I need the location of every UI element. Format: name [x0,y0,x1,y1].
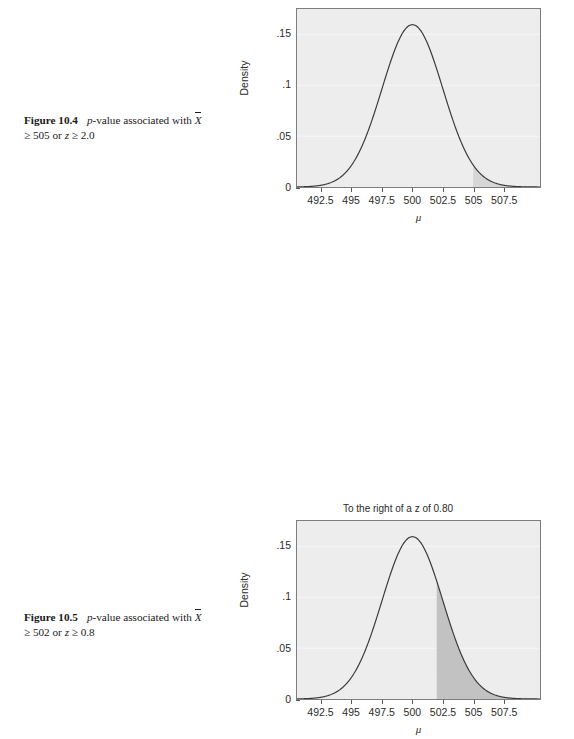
y-tick-label: .05 [265,130,291,142]
figure-caption-1-xbar: X [195,113,202,128]
density-plot-svg-1 [297,9,540,187]
x-axis-label-2: μ [296,723,541,735]
x-tick-mark [474,700,475,704]
y-tick-label: .15 [265,27,291,39]
y-tick-label: .1 [265,78,291,90]
y-axis-label-2: Density [238,572,250,607]
y-axis-ticks-2: 0.05.1.15 [262,520,296,700]
x-tick-mark [504,188,505,192]
density-chart-1: Density 0.05.1.15 492.5495497.5500502.55… [248,8,548,233]
y-tick: .15 [262,34,296,35]
x-tick-mark [382,188,383,192]
x-tick-mark [412,188,413,192]
y-tick-label: .1 [265,590,291,602]
y-tick: .05 [262,137,296,138]
figure-caption-2-text-a: -value associated with [92,611,194,623]
y-tick-label: 0 [265,181,291,193]
y-tick: 0 [262,700,296,701]
x-tick-mark [321,188,322,192]
y-tick: .15 [262,546,296,547]
figure-caption-2-xbar: X [195,610,202,625]
figure-caption-2-text-c: ≥ 0.8 [69,626,95,638]
y-axis-ticks-1: 0.05.1.15 [262,8,296,188]
figure-block-2: Figure 10.5p-value associated with X ≥ 5… [0,248,574,513]
figure-caption-2-text-b: ≥ 502 or [24,626,65,638]
density-plot-svg-2 [297,521,540,699]
x-tick-label: 507.5 [482,194,526,206]
x-tick-mark [474,188,475,192]
y-tick: .05 [262,649,296,650]
figure-block-1: Figure 10.4p-value associated with X ≥ 5… [0,0,574,248]
x-tick-label: 507.5 [482,706,526,718]
x-tick-mark [412,700,413,704]
x-tick-mark [382,700,383,704]
chart-title-2: To the right of a z of 0.80 [248,503,548,514]
y-tick-label: .15 [265,539,291,551]
density-chart-2: To the right of a z of 0.80 Density 0.05… [248,503,548,739]
x-axis-label-1: μ [296,211,541,223]
y-tick-label: 0 [265,693,291,705]
plot-area-1 [296,8,541,188]
y-tick-label: .05 [265,642,291,654]
x-tick-mark [351,700,352,704]
figure-caption-1-text-a: -value associated with [92,114,194,126]
y-tick: .1 [262,85,296,86]
figure-caption-1-label: Figure 10.4 [24,114,78,126]
plot-area-2 [296,520,541,700]
figure-caption-2: Figure 10.5p-value associated with X ≥ 5… [24,610,209,639]
x-tick-mark [504,700,505,704]
x-tick-mark [443,188,444,192]
x-tick-mark [443,700,444,704]
y-axis-label-1: Density [238,60,250,95]
x-tick-mark [351,188,352,192]
figure-caption-1: Figure 10.4p-value associated with X ≥ 5… [24,113,209,142]
figure-caption-1-text-b: ≥ 505 or [24,129,65,141]
y-tick: .1 [262,597,296,598]
y-tick: 0 [262,188,296,189]
figure-caption-2-label: Figure 10.5 [24,611,78,623]
x-tick-mark [321,700,322,704]
figure-caption-1-text-c: ≥ 2.0 [69,129,95,141]
